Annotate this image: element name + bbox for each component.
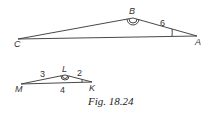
figure-caption: Fig. 18.24 <box>87 95 134 107</box>
triangle-klm: L K M 3 2 4 <box>15 64 96 95</box>
vertex-label-m: M <box>15 84 23 94</box>
vertex-label-c: C <box>14 39 21 49</box>
angle-b-arc-inner <box>129 19 137 23</box>
vertex-label-k: K <box>89 83 96 93</box>
vertex-label-l: L <box>62 64 67 74</box>
vertex-label-a: A <box>194 37 201 47</box>
side-label-mk: 4 <box>60 85 65 95</box>
side-label-ml: 3 <box>40 69 45 79</box>
figure-canvas: B A C 6 L K M 3 2 4 Fig. 18.24 <box>0 0 212 113</box>
angle-l-arc-inner <box>63 76 68 79</box>
side-label-ab: 6 <box>160 18 165 28</box>
triangle-abc: B A C 6 <box>14 6 201 49</box>
side-mk <box>21 82 92 84</box>
side-cb <box>18 18 133 39</box>
side-label-lk: 2 <box>77 68 82 78</box>
side-ca <box>18 36 197 39</box>
vertex-label-b: B <box>129 6 135 16</box>
